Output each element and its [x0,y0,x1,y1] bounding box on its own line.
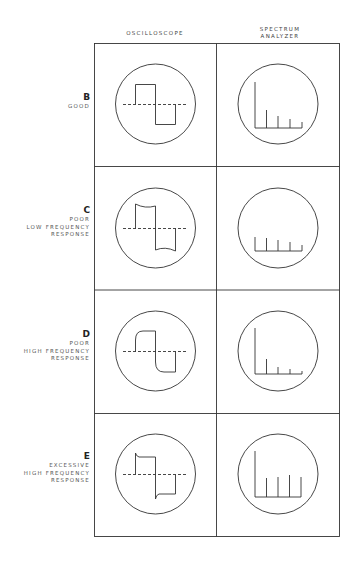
oscilloscope-display-poor-high-frequency [116,311,196,391]
oscilloscope-display-poor-low-frequency [116,188,196,268]
oscilloscope-display-good [116,64,196,144]
spectrum-display-poor-low-frequency [238,188,318,268]
spectrum-display-excessive-high-frequency [238,434,318,514]
spectrum-display-poor-high-frequency [238,311,318,391]
spectrum-display-good [238,64,318,144]
comparison-grid [0,0,358,565]
oscilloscope-display-excessive-high-frequency [116,434,196,514]
